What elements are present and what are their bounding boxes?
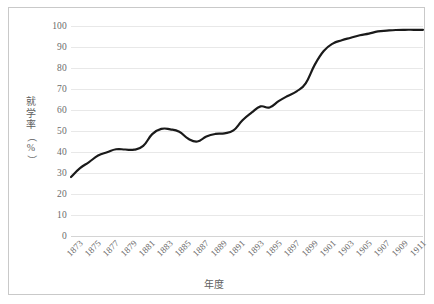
x-tick-label-1907: 1907 [372, 238, 392, 258]
x-tick-label-1885: 1885 [173, 238, 193, 258]
x-tick-label-1901: 1901 [317, 238, 337, 258]
x-tick-label-1909: 1909 [390, 238, 410, 258]
y-tick-label-100: 100 [52, 21, 67, 31]
y-tick-label-0: 0 [62, 231, 67, 241]
x-tick-label-1911: 1911 [408, 238, 428, 258]
y-axis-title-char-5: ） [25, 151, 37, 167]
y-tick-label-40: 40 [57, 147, 67, 157]
y-tick-label-50: 50 [57, 126, 67, 136]
x-tick-label-1873: 1873 [65, 238, 85, 258]
series-line-path [71, 30, 423, 177]
y-tick-label-80: 80 [57, 63, 67, 73]
x-tick-label-1897: 1897 [281, 238, 301, 258]
x-tick-label-1903: 1903 [335, 238, 355, 258]
y-tick-label-30: 30 [57, 168, 67, 178]
x-tick-label-1879: 1879 [119, 238, 139, 258]
chart-frame: 就 学 率 （ % ） 0102030405060708090100 18731… [8, 7, 425, 295]
chart-screenshot: 就 学 率 （ % ） 0102030405060708090100 18731… [0, 0, 434, 304]
x-tick-label-1899: 1899 [299, 238, 319, 258]
y-axis-tick-labels: 0102030405060708090100 [39, 26, 67, 236]
x-tick-label-1877: 1877 [101, 238, 121, 258]
x-tick-label-1891: 1891 [227, 238, 247, 258]
x-tick-label-1881: 1881 [137, 238, 157, 258]
x-tick-label-1905: 1905 [354, 238, 374, 258]
x-tick-label-1895: 1895 [263, 238, 283, 258]
plot-area [71, 26, 423, 236]
y-tick-label-90: 90 [57, 42, 67, 52]
y-tick-label-60: 60 [57, 105, 67, 115]
y-axis-title-char-3: （ [25, 128, 37, 144]
y-tick-label-70: 70 [57, 84, 67, 94]
series-line-chart [71, 26, 423, 236]
gridline-0 [71, 236, 423, 237]
y-axis-title-char-0: 就 [23, 96, 39, 108]
y-tick-label-10: 10 [57, 210, 67, 220]
y-axis-title-char-1: 学 [23, 108, 39, 120]
x-tick-label-1887: 1887 [191, 238, 211, 258]
x-tick-label-1875: 1875 [83, 238, 103, 258]
x-axis-tick-labels: 1873187518771879188118831885188718891891… [71, 238, 423, 270]
y-tick-label-20: 20 [57, 189, 67, 199]
x-axis-title: 年度 [204, 276, 224, 291]
x-tick-label-1883: 1883 [155, 238, 175, 258]
y-axis-title: 就 学 率 （ % ） [23, 96, 39, 165]
x-tick-label-1893: 1893 [245, 238, 265, 258]
x-tick-label-1889: 1889 [209, 238, 229, 258]
